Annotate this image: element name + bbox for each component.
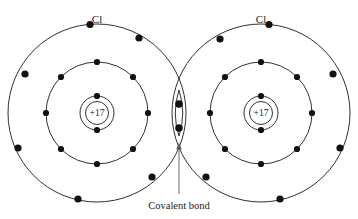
electron-dot (130, 146, 136, 152)
electron-dot (258, 93, 264, 99)
electron-dot (207, 110, 213, 116)
electron-dot (135, 34, 142, 41)
electron-dot (94, 93, 100, 99)
electron-dot (74, 195, 81, 202)
electron-dot (14, 144, 21, 151)
covalent-bond-diagram: +17 +17 (0, 0, 358, 219)
electron-dot (329, 70, 336, 77)
electron-dot (175, 100, 183, 108)
electron-dot (21, 70, 28, 77)
electron-dot (175, 124, 183, 132)
electron-dot (145, 110, 151, 116)
electron-dot (258, 161, 264, 167)
electron-dot (94, 127, 100, 133)
electron-dot (58, 146, 64, 152)
electron-dot (130, 74, 136, 80)
diagram-canvas: +17 +17 (0, 0, 358, 219)
electron-dot (222, 146, 228, 152)
covalent-bond-caption: Covalent bond (148, 200, 210, 211)
right-atom-element-label: Cl (256, 13, 266, 25)
electron-dot (336, 144, 343, 151)
left-atom-element-label: Cl (92, 13, 102, 25)
left-atom-nucleus-label: +17 (90, 108, 105, 118)
electron-dot (222, 74, 228, 80)
electron-dot (216, 35, 223, 42)
electron-dot (276, 195, 283, 202)
electron-dot (94, 59, 100, 65)
electron-dot (294, 74, 300, 80)
electron-dot (94, 161, 100, 167)
electron-dot (309, 110, 315, 116)
electron-dot (43, 110, 49, 116)
electron-dot (148, 173, 155, 180)
right-atom-nucleus-label: +17 (254, 108, 269, 118)
electron-dot (258, 127, 264, 133)
electron-dot (294, 146, 300, 152)
electron-dot (258, 59, 264, 65)
electron-dot (58, 74, 64, 80)
electron-dot (265, 21, 272, 28)
electron-dot (202, 173, 209, 180)
